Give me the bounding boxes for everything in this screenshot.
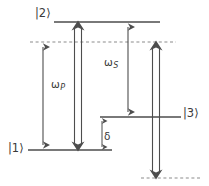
level-label-state1: |1⟩ [8, 143, 24, 155]
level-label-state3: |3⟩ [183, 108, 199, 120]
stokes-double-arrow [150, 41, 163, 180]
omega-s-subscript: S [113, 61, 119, 70]
omega-s-symbol: ω [104, 56, 113, 68]
detuning-label: δ [104, 131, 110, 142]
pump-frequency-label: ωP [51, 79, 65, 92]
diagram-canvas [0, 0, 209, 186]
level-label-state2: |2⟩ [35, 8, 51, 20]
omega-p-subscript: P [60, 83, 65, 92]
omega-p-symbol: ω [51, 78, 60, 90]
pump-arrow [72, 21, 85, 152]
energy-level-diagram: |2⟩ |1⟩ |3⟩ ωP ωS δ [0, 0, 209, 186]
stokes-frequency-label: ωS [104, 57, 118, 70]
